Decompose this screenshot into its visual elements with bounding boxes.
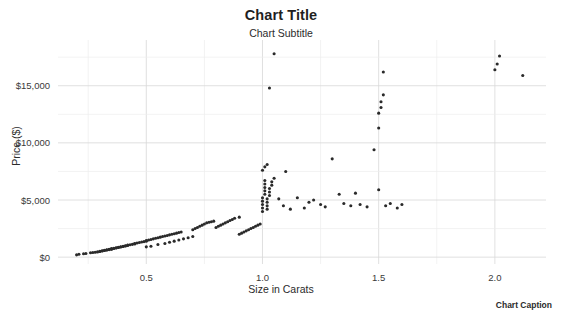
data-point bbox=[338, 193, 341, 196]
y-tick-label: $15,000 bbox=[16, 80, 50, 91]
data-point bbox=[261, 206, 264, 209]
data-point bbox=[233, 217, 236, 220]
data-point bbox=[268, 187, 271, 190]
data-point bbox=[389, 202, 392, 205]
data-point bbox=[379, 106, 382, 109]
data-point bbox=[268, 194, 271, 197]
data-point bbox=[354, 192, 357, 195]
data-point bbox=[384, 204, 387, 207]
data-point bbox=[284, 170, 287, 173]
data-point bbox=[263, 179, 266, 182]
data-point bbox=[238, 216, 241, 219]
data-point bbox=[263, 189, 266, 192]
data-points bbox=[75, 52, 524, 256]
data-point bbox=[268, 190, 271, 193]
data-point bbox=[377, 112, 380, 115]
data-point bbox=[498, 54, 501, 57]
data-point bbox=[263, 193, 266, 196]
data-point bbox=[331, 157, 334, 160]
plot-area: $0$5,000$10,000$15,0000.51.01.52.0 bbox=[0, 0, 562, 329]
x-tick-label: 1.5 bbox=[372, 272, 385, 283]
data-point bbox=[296, 196, 299, 199]
data-point bbox=[366, 205, 369, 208]
data-point bbox=[400, 203, 403, 206]
data-point bbox=[303, 206, 306, 209]
data-point bbox=[382, 70, 385, 73]
data-point bbox=[182, 237, 185, 240]
data-point bbox=[266, 197, 269, 200]
scatter-chart: Chart Title Chart Subtitle Price ($) Siz… bbox=[0, 0, 562, 329]
data-point bbox=[261, 210, 264, 213]
data-point bbox=[266, 163, 269, 166]
data-point bbox=[289, 208, 292, 211]
data-point bbox=[263, 186, 266, 189]
y-tick-label: $0 bbox=[39, 252, 50, 263]
x-tick-label: 0.5 bbox=[140, 272, 153, 283]
data-point bbox=[163, 242, 166, 245]
data-point bbox=[396, 206, 399, 209]
data-point bbox=[187, 236, 190, 239]
data-point bbox=[282, 204, 285, 207]
data-point bbox=[263, 165, 266, 168]
y-tick-label: $10,000 bbox=[16, 137, 50, 148]
data-point bbox=[168, 241, 171, 244]
data-point bbox=[496, 62, 499, 65]
data-point bbox=[319, 203, 322, 206]
data-point bbox=[261, 169, 264, 172]
data-point bbox=[149, 245, 152, 248]
y-tick-label: $5,000 bbox=[21, 195, 50, 206]
data-point bbox=[266, 208, 269, 211]
data-point bbox=[261, 196, 264, 199]
data-point bbox=[521, 74, 524, 77]
x-tick-label: 2.0 bbox=[488, 272, 501, 283]
data-point bbox=[277, 197, 280, 200]
data-point bbox=[349, 204, 352, 207]
data-point bbox=[263, 182, 266, 185]
data-point bbox=[156, 243, 159, 246]
data-point bbox=[307, 201, 310, 204]
data-point bbox=[359, 203, 362, 206]
data-point bbox=[77, 253, 80, 256]
data-point bbox=[266, 201, 269, 204]
data-point bbox=[177, 238, 180, 241]
data-point bbox=[270, 184, 273, 187]
data-point bbox=[382, 93, 385, 96]
data-point bbox=[145, 245, 148, 248]
data-point bbox=[379, 100, 382, 103]
x-tick-label: 1.0 bbox=[256, 272, 269, 283]
data-point bbox=[377, 188, 380, 191]
data-point bbox=[180, 230, 183, 233]
data-point bbox=[273, 52, 276, 55]
data-point bbox=[312, 198, 315, 201]
data-point bbox=[259, 222, 262, 225]
data-point bbox=[273, 177, 276, 180]
data-point bbox=[372, 148, 375, 151]
data-point bbox=[493, 68, 496, 71]
data-point bbox=[173, 240, 176, 243]
data-point bbox=[261, 203, 264, 206]
data-point bbox=[324, 205, 327, 208]
data-point bbox=[212, 220, 215, 223]
data-point bbox=[191, 235, 194, 238]
data-point bbox=[266, 204, 269, 207]
data-point bbox=[261, 200, 264, 203]
data-point bbox=[377, 126, 380, 129]
data-point bbox=[268, 86, 271, 89]
data-point bbox=[342, 202, 345, 205]
data-point bbox=[270, 180, 273, 183]
data-point bbox=[84, 252, 87, 255]
